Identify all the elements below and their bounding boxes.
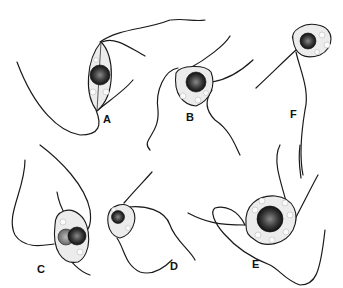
cell-b [147,19,253,155]
cell-f [256,24,331,175]
label-c: C [37,263,45,275]
label-a: A [103,113,111,125]
cell-c [12,145,90,275]
cell-d [108,172,195,273]
label-b: B [186,111,194,123]
label-f: F [290,108,297,120]
cell-a [17,20,170,135]
label-e: E [252,258,259,270]
flagellate-cells-figure: A B F C D E [0,0,343,288]
label-d: D [170,260,178,272]
